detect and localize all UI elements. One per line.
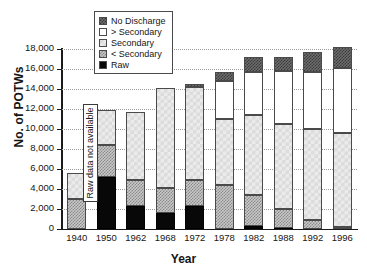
bar-1972	[185, 49, 204, 229]
y-tick-label: 10,000	[2, 122, 54, 133]
y-tick	[57, 229, 62, 230]
bar-segment-1982-secondary	[244, 195, 263, 227]
bar-segment-1992-secondary	[303, 72, 322, 129]
y-tick-label: 14,000	[2, 82, 54, 93]
bar-segment-1988-no-discharge	[274, 57, 293, 71]
bar-segment-1978-secondary	[215, 81, 234, 119]
y-tick	[57, 169, 62, 170]
legend-swatch-icon	[99, 39, 107, 47]
y-tick	[57, 89, 62, 90]
y-tick-label: 18,000	[2, 42, 54, 53]
bar-segment-1996-secondary	[333, 227, 352, 229]
bar-segment-1968-secondary	[156, 88, 175, 188]
bar-segment-1968-raw	[156, 213, 175, 229]
bar-segment-1978-secondary	[215, 185, 234, 230]
bar-segment-1950-raw	[97, 177, 116, 229]
bar-1950	[97, 49, 116, 229]
legend-label: No Discharge	[111, 16, 166, 26]
bar-segment-1962-secondary	[126, 112, 145, 180]
y-tick	[57, 149, 62, 150]
legend-label: > Secondary	[111, 27, 162, 37]
bar-segment-1950-secondary	[97, 110, 116, 145]
bar-segment-1996-no-discharge	[333, 47, 352, 68]
bar-segment-1972-secondary	[185, 180, 204, 206]
y-tick-label: 6,000	[2, 162, 54, 173]
bar-1962	[126, 49, 145, 229]
bar-segment-1982-no-discharge	[244, 57, 263, 72]
legend-swatch-icon	[99, 50, 107, 58]
legend-item-secondary: Secondary	[99, 37, 166, 48]
plot-area: 02,0004,0006,0008,00010,00012,00014,0001…	[62, 49, 357, 229]
bar-segment-1972-no-discharge	[185, 84, 204, 87]
y-tick	[57, 69, 62, 70]
y-tick	[57, 189, 62, 190]
chart-figure: No. of POTWs Year 02,0004,0006,0008,0001…	[0, 0, 367, 274]
bar-1968	[156, 49, 175, 229]
bar-segment-1962-raw	[126, 206, 145, 229]
y-tick-label: 16,000	[2, 62, 54, 73]
legend-label: < Secondary	[111, 49, 162, 59]
bar-1982	[244, 49, 263, 229]
bar-segment-1982-raw	[244, 226, 263, 229]
bar-segment-1992-no-discharge	[303, 52, 322, 72]
bar-segment-1978-no-discharge	[215, 72, 234, 81]
bar-1992	[303, 49, 322, 229]
x-axis-title: Year	[0, 252, 367, 266]
y-tick-label: 4,000	[2, 182, 54, 193]
legend: No Discharge> SecondarySecondary< Second…	[94, 11, 173, 74]
bar-segment-1996-secondary	[333, 68, 352, 133]
legend-swatch-icon	[99, 61, 107, 69]
legend-item-secondary: > Secondary	[99, 26, 166, 37]
y-tick	[57, 129, 62, 130]
y-tick	[57, 49, 62, 50]
legend-label: Raw	[111, 60, 129, 70]
y-tick-label: 12,000	[2, 102, 54, 113]
bar-1988	[274, 49, 293, 229]
legend-item-no-discharge: No Discharge	[99, 15, 166, 26]
y-tick-label: 0	[2, 222, 54, 233]
bar-segment-1972-secondary	[185, 87, 204, 180]
bar-segment-1982-secondary	[244, 115, 263, 195]
bar-segment-1978-secondary	[215, 119, 234, 185]
bar-segment-1950-secondary	[97, 145, 116, 177]
bar-segment-1940-secondary	[67, 199, 86, 229]
bar-segment-1996-secondary	[333, 133, 352, 228]
bar-1996	[333, 49, 352, 229]
bar-segment-1968-secondary	[156, 188, 175, 213]
bar-segment-1992-secondary	[303, 220, 322, 230]
y-tick	[57, 109, 62, 110]
bar-segment-1992-secondary	[303, 129, 322, 220]
x-tick-label-1996: 1996	[322, 232, 362, 243]
bar-segment-1988-secondary	[274, 209, 293, 228]
no-data-annotation: Raw data not available	[83, 104, 98, 202]
bar-1978	[215, 49, 234, 229]
legend-label: Secondary	[111, 38, 154, 48]
y-tick-label: 8,000	[2, 142, 54, 153]
legend-item-raw: Raw	[99, 59, 166, 70]
bar-segment-1988-secondary	[274, 124, 293, 209]
bar-segment-1982-secondary	[244, 72, 263, 115]
bar-segment-1972-raw	[185, 206, 204, 230]
y-tick	[57, 209, 62, 210]
legend-item-secondary: < Secondary	[99, 48, 166, 59]
legend-swatch-icon	[99, 17, 107, 25]
legend-swatch-icon	[99, 28, 107, 36]
y-tick-label: 2,000	[2, 202, 54, 213]
bar-segment-1988-secondary	[274, 71, 293, 124]
bar-segment-1962-secondary	[126, 180, 145, 207]
